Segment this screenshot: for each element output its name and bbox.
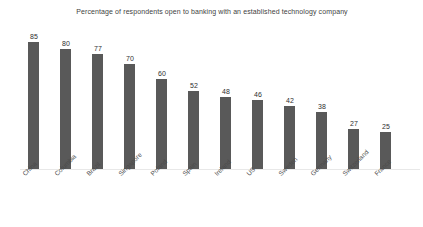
bar-value-label: 42 xyxy=(274,97,306,104)
bar-group: 42 xyxy=(274,0,306,169)
bar-value-label: 48 xyxy=(210,88,242,95)
bar-value-label: 25 xyxy=(370,123,402,130)
bar-group: 27 xyxy=(338,0,370,169)
bar-group: 25 xyxy=(370,0,402,169)
bar-group: 38 xyxy=(306,0,338,169)
bar-value-label: 77 xyxy=(82,45,114,52)
bar-group: 80 xyxy=(50,0,82,169)
bar-value-label: 46 xyxy=(242,91,274,98)
table-row[interactable] xyxy=(28,42,39,169)
table-row[interactable] xyxy=(156,79,167,169)
bar-group: 52 xyxy=(178,0,210,169)
bar-value-label: 52 xyxy=(178,82,210,89)
table-row[interactable] xyxy=(60,49,71,169)
bar-group: 48 xyxy=(210,0,242,169)
bar-value-label: 38 xyxy=(306,103,338,110)
bar-chart: Percentage of respondents open to bankin… xyxy=(0,0,423,227)
bar-group: 60 xyxy=(146,0,178,169)
bar-group: 85 xyxy=(18,0,50,169)
bar-group: 77 xyxy=(82,0,114,169)
bar-value-label: 85 xyxy=(18,33,50,40)
table-row[interactable] xyxy=(92,54,103,169)
plot-area: 85 80 77 70 60 52 48 46 xyxy=(0,0,423,169)
bar-value-label: 60 xyxy=(146,70,178,77)
bar-value-label: 80 xyxy=(50,40,82,47)
table-row[interactable] xyxy=(252,100,263,169)
table-row[interactable] xyxy=(124,64,135,169)
table-row[interactable] xyxy=(188,91,199,169)
bar-value-label: 70 xyxy=(114,55,146,62)
bar-group: 70 xyxy=(114,0,146,169)
bar-group: 46 xyxy=(242,0,274,169)
bar-value-label: 27 xyxy=(338,120,370,127)
